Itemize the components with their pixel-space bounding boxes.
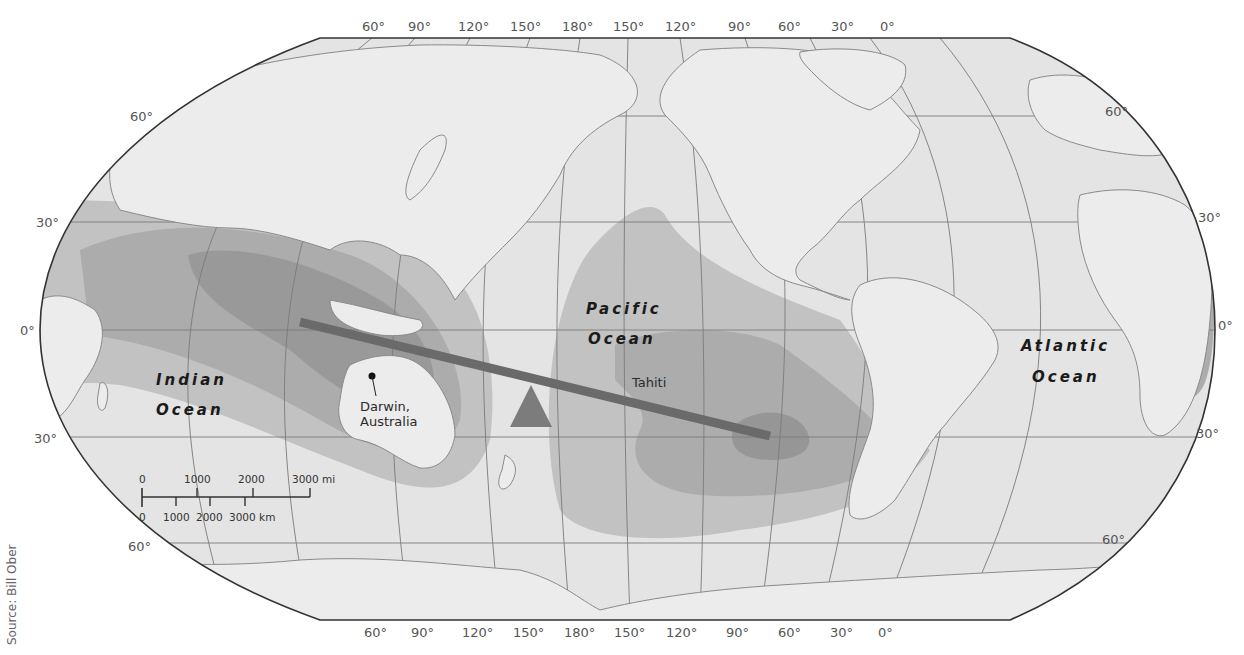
- svg-text:120°: 120°: [462, 625, 493, 640]
- svg-text:120°: 120°: [666, 625, 697, 640]
- svg-text:1000: 1000: [163, 511, 190, 523]
- longitude-labels-bottom: 60° 90° 120° 150° 180° 150° 120° 90° 60°…: [364, 625, 893, 640]
- svg-text:Darwin,: Darwin,: [360, 399, 410, 414]
- svg-text:Ocean: Ocean: [156, 401, 224, 419]
- svg-text:120°: 120°: [458, 19, 489, 34]
- longitude-labels-top: 60° 90° 120° 150° 180° 150° 120° 90° 60°…: [362, 19, 895, 34]
- svg-text:0: 0: [139, 473, 146, 485]
- svg-text:180°: 180°: [564, 625, 595, 640]
- svg-text:90°: 90°: [411, 625, 434, 640]
- svg-text:30°: 30°: [831, 19, 854, 34]
- svg-text:2000: 2000: [196, 511, 223, 523]
- svg-text:30°: 30°: [830, 625, 853, 640]
- svg-text:30°: 30°: [1196, 426, 1219, 441]
- svg-text:Australia: Australia: [360, 414, 418, 429]
- svg-text:60°: 60°: [364, 625, 387, 640]
- svg-text:150°: 150°: [510, 19, 541, 34]
- svg-text:150°: 150°: [513, 625, 544, 640]
- world-map: 60° 90° 120° 150° 180° 150° 120° 90° 60°…: [0, 0, 1244, 655]
- svg-text:60°: 60°: [778, 19, 801, 34]
- svg-text:3000 km: 3000 km: [229, 511, 275, 523]
- svg-text:0°: 0°: [880, 19, 895, 34]
- svg-text:2000: 2000: [238, 473, 265, 485]
- svg-text:90°: 90°: [726, 625, 749, 640]
- source-credit: Source: Bill Ober: [5, 544, 19, 645]
- svg-text:30°: 30°: [34, 431, 57, 446]
- svg-text:0°: 0°: [878, 625, 893, 640]
- svg-text:60°: 60°: [778, 625, 801, 640]
- svg-text:90°: 90°: [728, 19, 751, 34]
- svg-text:150°: 150°: [614, 625, 645, 640]
- svg-text:Atlantic: Atlantic: [1020, 337, 1110, 355]
- svg-text:60°: 60°: [1102, 532, 1125, 547]
- svg-text:120°: 120°: [665, 19, 696, 34]
- place-label-darwin: Darwin, Australia: [360, 399, 418, 429]
- svg-text:Ocean: Ocean: [1032, 368, 1100, 386]
- svg-text:180°: 180°: [562, 19, 593, 34]
- svg-text:0°: 0°: [20, 323, 35, 338]
- svg-text:0: 0: [139, 511, 146, 523]
- svg-text:60°: 60°: [362, 19, 385, 34]
- svg-text:30°: 30°: [36, 215, 59, 230]
- svg-text:0°: 0°: [1218, 318, 1233, 333]
- svg-text:60°: 60°: [128, 539, 151, 554]
- svg-text:60°: 60°: [130, 109, 153, 124]
- place-label-tahiti: Tahiti: [631, 375, 666, 390]
- svg-text:Indian: Indian: [156, 371, 227, 389]
- svg-text:Pacific: Pacific: [586, 300, 662, 318]
- svg-text:90°: 90°: [408, 19, 431, 34]
- svg-text:3000 mi: 3000 mi: [292, 473, 335, 485]
- svg-text:60°: 60°: [1105, 104, 1128, 119]
- svg-text:30°: 30°: [1198, 210, 1221, 225]
- svg-text:1000: 1000: [184, 473, 211, 485]
- svg-text:Ocean: Ocean: [588, 330, 656, 348]
- svg-text:150°: 150°: [613, 19, 644, 34]
